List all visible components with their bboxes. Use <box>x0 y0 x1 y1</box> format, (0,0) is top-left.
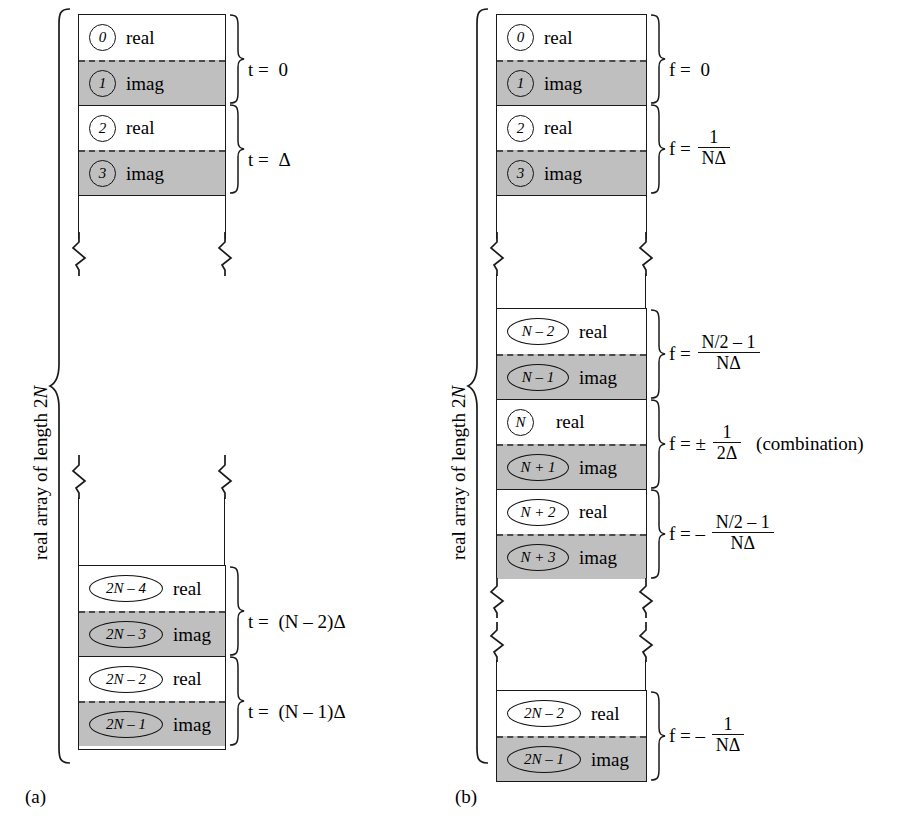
cell-a-2: 2 real <box>79 105 225 150</box>
eq-lhs: t = <box>248 702 269 721</box>
panel-b-stub-lower-left <box>496 660 497 690</box>
equation-b-fneg1nd: f = – 1 NΔ <box>669 716 746 755</box>
cell-b-3: 3 imag <box>497 150 646 195</box>
eq-lhs: f = <box>669 139 691 158</box>
panel-a-outer-brace <box>48 6 72 766</box>
eq-value: 0 <box>701 60 711 79</box>
cell-label: real <box>173 668 201 690</box>
panel-a-top-block: 0 real 1 imag 2 real 3 imag <box>78 14 226 239</box>
cell-label: imag <box>591 749 629 771</box>
fraction: 1 NΔ <box>698 128 731 167</box>
cell-a-1: 1 imag <box>79 60 225 105</box>
break-mark-a-bottom-right <box>216 455 238 499</box>
cell-b-blank-top <box>497 195 646 240</box>
cell-index: 2N – 1 <box>507 746 581 773</box>
fraction-numerator: N/2 – 1 <box>698 333 760 352</box>
eq-lhs: t = <box>248 60 269 79</box>
cell-label: imag <box>579 367 617 389</box>
panel-b-bottom-block: 2N – 2 real 2N – 1 imag <box>496 690 647 782</box>
cell-index: N – 2 <box>507 318 569 345</box>
panel-a: real array of length 2N 0 real 1 imag 2 … <box>0 0 460 829</box>
cell-index: N <box>507 409 534 436</box>
cell-label: imag <box>126 163 164 185</box>
eq-lhs: t = <box>248 612 269 631</box>
break-mark-b-mid-right <box>637 578 659 618</box>
group-brace-a-t0 <box>229 14 245 104</box>
cell-index: 2N – 2 <box>89 666 163 693</box>
cell-a-2n-1: 2N – 1 imag <box>79 701 225 746</box>
fraction-numerator: 1 <box>698 128 731 147</box>
break-mark-a-top-right <box>216 232 238 276</box>
fraction-denominator: NΔ <box>712 532 774 552</box>
break-mark-b-mid-left <box>488 578 510 618</box>
cell-label: imag <box>544 163 582 185</box>
cell-label: real <box>126 117 154 139</box>
cell-index: 3 <box>507 160 534 187</box>
group-brace-b-f0 <box>650 14 666 104</box>
group-brace-b-fnegn2m1 <box>650 489 666 579</box>
cell-index: N + 1 <box>507 454 569 481</box>
cell-label: real <box>544 117 572 139</box>
cell-b-0: 0 real <box>497 15 646 60</box>
panel-b-stub-upper-left <box>496 274 497 308</box>
cell-label: real <box>556 411 584 433</box>
cell-label: real <box>173 578 201 600</box>
cell-index: 1 <box>89 70 116 97</box>
break-mark-a-top-left <box>70 232 92 276</box>
cell-b-n-plus-2: N + 2 real <box>497 489 646 534</box>
fraction-numerator: 1 <box>713 423 742 442</box>
cell-index: 2 <box>89 115 116 142</box>
cell-index: 0 <box>89 24 116 51</box>
group-brace-a-tn1 <box>229 656 245 746</box>
eq-lhs: f = – <box>669 726 705 745</box>
cell-a-3: 3 imag <box>79 150 225 195</box>
equation-a-tn2: t = (N – 2)Δ <box>248 610 346 631</box>
fraction-numerator: N/2 – 1 <box>712 513 774 532</box>
eq-value: (N – 1)Δ <box>279 702 346 721</box>
group-brace-b-fn2m1 <box>650 309 666 399</box>
cell-index: 0 <box>507 24 534 51</box>
cell-index: 3 <box>89 160 116 187</box>
eq-value: Δ <box>279 150 291 169</box>
cell-b-n: N real <box>497 399 646 444</box>
equation-b-f0: f = 0 <box>669 58 710 79</box>
cell-a-2n-3: 2N – 3 imag <box>79 611 225 656</box>
panel-a-bottom-block: 2N – 4 real 2N – 3 imag 2N – 2 real 2N –… <box>78 565 226 750</box>
equation-a-tn1: t = (N – 1)Δ <box>248 700 346 721</box>
cell-label: imag <box>126 73 164 95</box>
cell-b-n-plus-3: N + 3 imag <box>497 534 646 579</box>
cell-label: imag <box>579 457 617 479</box>
cell-label: imag <box>173 714 211 736</box>
equation-a-t0: t = 0 <box>248 58 288 79</box>
fraction-denominator: NΔ <box>698 147 731 167</box>
group-brace-b-fnyquist <box>650 399 666 489</box>
cell-index: 2N – 4 <box>89 575 163 602</box>
eq-lhs: f = – <box>669 524 705 543</box>
panel-b-stub-lower-right <box>645 660 646 690</box>
eq-tail: (combination) <box>756 434 864 453</box>
group-brace-a-tdelta <box>229 104 245 194</box>
cell-index: N + 3 <box>507 544 569 571</box>
group-brace-b-fneg1nd <box>650 691 666 781</box>
cell-index: 1 <box>507 70 534 97</box>
cell-index: N + 2 <box>507 499 569 526</box>
cell-index: N – 1 <box>507 364 569 391</box>
eq-value: 0 <box>279 60 289 79</box>
cell-b-n-plus-1: N + 1 imag <box>497 444 646 489</box>
cell-label: real <box>544 27 572 49</box>
eq-lhs: f = <box>669 344 691 363</box>
figure-canvas: real array of length 2N 0 real 1 imag 2 … <box>0 0 919 829</box>
cell-label: real <box>579 501 607 523</box>
panel-b-stub-upper-right <box>645 274 646 308</box>
cell-b-2: 2 real <box>497 105 646 150</box>
panel-a-stub-left <box>78 497 79 567</box>
cell-b-1: 1 imag <box>497 60 646 105</box>
panel-b: real array of length 2N 0 real 1 imag 2 … <box>430 0 919 829</box>
cell-label: imag <box>579 547 617 569</box>
cell-index: 2N – 2 <box>507 700 581 727</box>
break-mark-b-top-left <box>488 232 510 276</box>
cell-b-n-1: N – 1 imag <box>497 354 646 399</box>
cell-index: 2N – 3 <box>89 621 163 648</box>
break-mark-b-low-left <box>488 622 510 662</box>
break-mark-b-low-right <box>637 622 659 662</box>
